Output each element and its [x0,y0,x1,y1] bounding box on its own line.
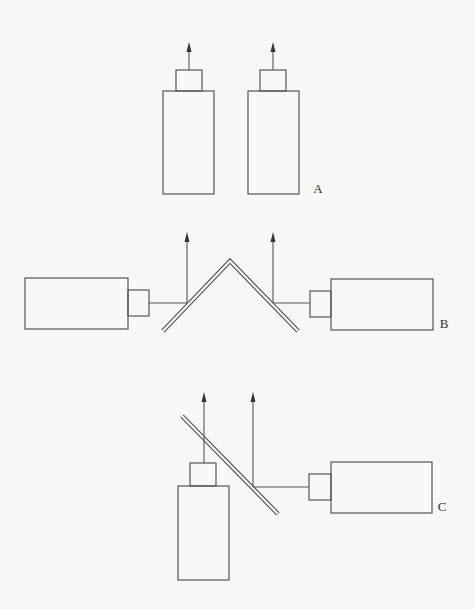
panel-label: A [313,181,323,196]
arrow-up-icon [271,232,276,303]
camera [25,278,149,329]
camera-lens [260,70,286,91]
arrow-up-icon [251,392,256,487]
camera-lens [176,70,202,91]
camera-body [331,279,433,330]
camera-body [178,486,229,580]
panel-a: A [163,42,323,196]
mirror-inner [182,416,278,514]
camera-lens [309,474,331,500]
camera [163,70,214,194]
panel-b: B [25,232,449,331]
arrow-up-icon [271,42,276,70]
camera-body [25,278,128,329]
arrow-up-icon [187,42,192,70]
camera-mirror-diagram: ABC [0,0,475,609]
camera-body [248,91,299,194]
mirror [163,261,298,331]
camera-lens [190,463,216,486]
camera-body [331,462,432,513]
arrow-up-icon [202,392,207,463]
camera [178,463,229,580]
mirror-inner [163,261,298,331]
arrow-up-icon [185,232,190,303]
camera [309,462,432,513]
camera [248,70,299,194]
camera-lens [310,291,331,317]
camera [310,279,433,330]
camera-lens [128,290,149,316]
camera-body [163,91,214,194]
panel-c: C [178,392,446,580]
panel-label: B [440,316,449,331]
panel-label: C [438,499,447,514]
